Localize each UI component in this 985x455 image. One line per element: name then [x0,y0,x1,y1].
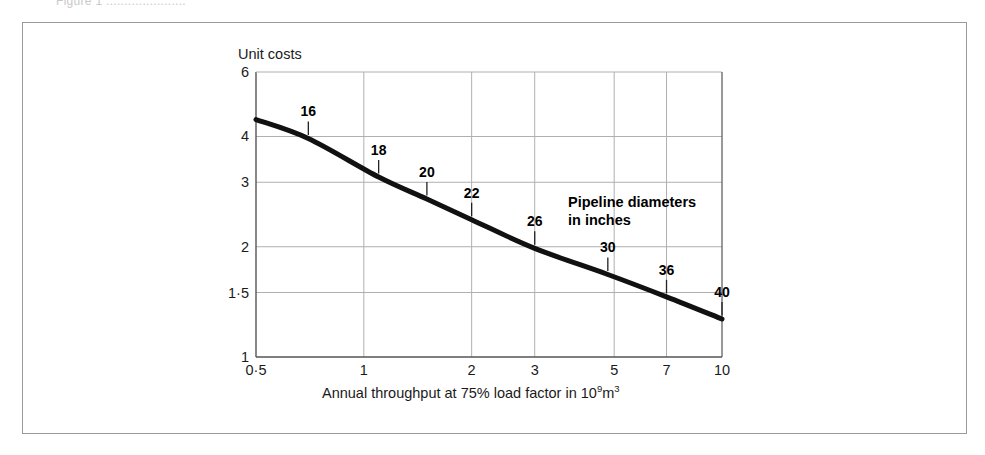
x-tick-label: 10 [714,362,730,378]
x-tick-label: 2 [468,362,476,378]
y-tick-label: 1·5 [228,285,249,301]
legend-annotation-note: Pipeline diameters in inches [568,193,696,229]
annotation-label-22: 22 [464,185,480,201]
annotation-label-36: 36 [659,262,675,278]
x-tick-label: 1 [360,362,368,378]
x-tick-label: 7 [662,362,670,378]
y-tick-label: 6 [241,64,249,80]
x-tick-label: 0·5 [246,362,267,378]
annotation-label-20: 20 [419,164,435,180]
annotation-label-40: 40 [714,284,730,300]
x-tick-label: 5 [610,362,618,378]
annotation-label-30: 30 [600,239,616,255]
y-tick-label: 3 [241,174,249,190]
x-axis-title: Annual throughput at 75% load factor in … [322,385,620,401]
annotation-label-18: 18 [371,142,387,158]
legend-note-line-2: in inches [568,211,696,229]
annotation-label-16: 16 [301,103,317,119]
annotation-label-26: 26 [527,213,543,229]
y-tick-label: 4 [241,128,249,144]
x-tick-label: 3 [531,362,539,378]
y-tick-label: 2 [241,239,249,255]
legend-note-line-1: Pipeline diameters [568,193,696,211]
y-axis-title: Unit costs [238,46,302,62]
